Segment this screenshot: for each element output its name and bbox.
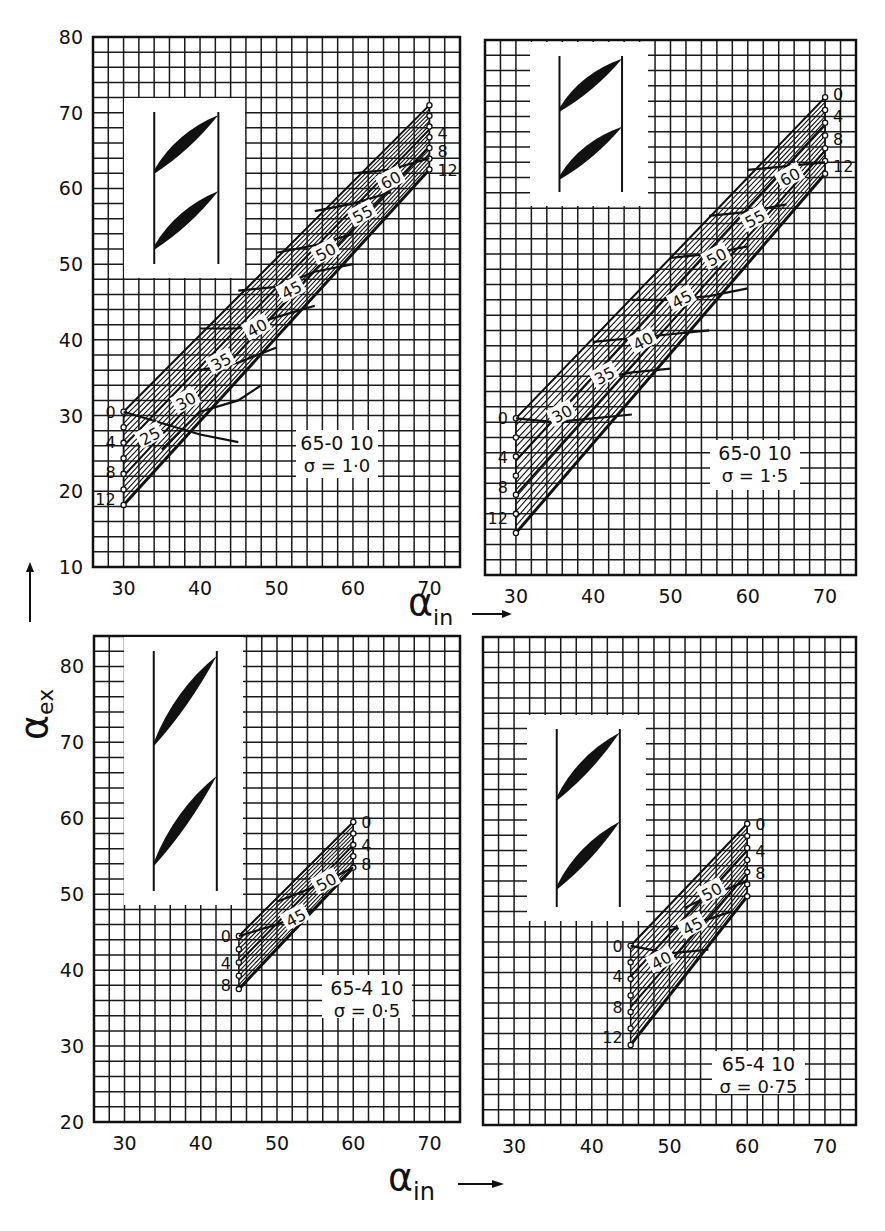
data-point-marker bbox=[236, 960, 241, 965]
data-point-marker bbox=[822, 120, 827, 125]
incidence-label-start: 4 bbox=[612, 967, 622, 986]
x-tick-label: 40 bbox=[188, 577, 212, 599]
chart-bottom-right: 65-4 10σ = 0·75404550004488123040506070 bbox=[483, 637, 856, 1157]
y-tick-label: 50 bbox=[59, 253, 83, 275]
incidence-label-end: 4 bbox=[437, 124, 447, 143]
data-point-marker bbox=[745, 833, 750, 838]
figure: 65-0 10σ = 1·025303540455055600448812123… bbox=[0, 0, 885, 1231]
x-tick-label: 30 bbox=[111, 577, 135, 599]
incidence-label-end: 4 bbox=[361, 836, 371, 855]
data-point-marker bbox=[628, 1042, 633, 1047]
incidence-label-start: 12 bbox=[95, 490, 115, 509]
x-tick-label: 60 bbox=[736, 585, 760, 607]
data-point-marker bbox=[351, 842, 356, 847]
solidity-label: σ = 1·0 bbox=[304, 455, 371, 476]
incidence-label-start: 12 bbox=[602, 1028, 622, 1047]
solidity-label: σ = 0·5 bbox=[334, 1000, 401, 1021]
x-tick-label: 40 bbox=[581, 585, 605, 607]
chart-top-left: 65-0 10σ = 1·025303540455055600448812123… bbox=[59, 26, 460, 599]
data-point-marker bbox=[822, 107, 827, 112]
chart-bottom-left: 65-4 10σ = 0·545500044883040506070203040… bbox=[60, 636, 460, 1154]
incidence-label-end: 8 bbox=[361, 855, 371, 874]
data-point-marker bbox=[427, 167, 432, 172]
incidence-label-end: 4 bbox=[755, 842, 765, 861]
incidence-label-start: 8 bbox=[498, 478, 508, 497]
x-axis-label-bottom: αin bbox=[388, 1155, 435, 1206]
y-tick-label: 70 bbox=[59, 102, 83, 124]
data-point-marker bbox=[628, 976, 633, 981]
incidence-label-end: 4 bbox=[833, 107, 843, 126]
data-point-marker bbox=[628, 993, 633, 998]
x-tick-label: 40 bbox=[580, 1135, 604, 1157]
incidence-label-end: 12 bbox=[437, 161, 457, 180]
blade-cascade-inset bbox=[124, 98, 245, 278]
data-point-marker bbox=[121, 487, 126, 492]
incidence-label-start: 0 bbox=[221, 927, 231, 946]
data-point-marker bbox=[121, 425, 126, 430]
data-point-marker bbox=[427, 113, 432, 118]
incidence-line-4 bbox=[239, 845, 353, 963]
x-tick-label: 40 bbox=[189, 1132, 213, 1154]
y-tick-label: 30 bbox=[59, 405, 83, 427]
incidence-label-start: 4 bbox=[105, 433, 115, 452]
y-tick-label: 30 bbox=[60, 1035, 84, 1057]
incidence-label-end: 0 bbox=[833, 85, 843, 104]
y-tick-label: 70 bbox=[60, 731, 84, 753]
hatch-lines bbox=[239, 822, 353, 989]
y-axis-title bbox=[8, 560, 48, 670]
incidence-label-start: 0 bbox=[612, 937, 622, 956]
solidity-label: σ = 0·75 bbox=[719, 1076, 797, 1097]
data-point-marker bbox=[236, 987, 241, 992]
data-point-marker bbox=[427, 124, 432, 129]
data-point-marker bbox=[745, 894, 750, 899]
incidence-label-start: 12 bbox=[488, 509, 508, 528]
data-point-marker bbox=[121, 502, 126, 507]
y-axis-label: αex bbox=[12, 660, 52, 740]
data-point-marker bbox=[745, 845, 750, 850]
data-point-marker bbox=[513, 473, 518, 478]
solidity-label: σ = 1·5 bbox=[722, 465, 789, 486]
y-tick-label: 20 bbox=[59, 480, 83, 502]
x-tick-label: 30 bbox=[502, 1135, 526, 1157]
y-tick-label: 10 bbox=[59, 556, 83, 578]
x-tick-label: 60 bbox=[341, 577, 365, 599]
y-tick-label: 40 bbox=[59, 329, 83, 351]
x-tick-label: 70 bbox=[813, 1135, 837, 1157]
data-point-marker bbox=[121, 456, 126, 461]
data-point-marker bbox=[236, 973, 241, 978]
y-tick-label: 80 bbox=[59, 26, 83, 48]
data-point-marker bbox=[745, 870, 750, 875]
data-point-marker bbox=[513, 530, 518, 535]
profile-label: 65-4 10 bbox=[722, 1053, 795, 1075]
data-point-marker bbox=[351, 831, 356, 836]
data-point-marker bbox=[513, 454, 518, 459]
data-point-marker bbox=[745, 857, 750, 862]
x-tick-label: 60 bbox=[735, 1135, 759, 1157]
data-point-marker bbox=[745, 821, 750, 826]
y-tick-label: 20 bbox=[60, 1111, 84, 1133]
profile-label: 65-0 10 bbox=[718, 442, 791, 464]
x-axis-arrow-icon-top bbox=[472, 605, 512, 624]
x-tick-label: 50 bbox=[657, 1135, 681, 1157]
incidence-label-start: 0 bbox=[105, 403, 115, 422]
x-axis-label-top: αin bbox=[408, 580, 453, 630]
y-tick-label: 80 bbox=[60, 655, 84, 677]
data-point-marker bbox=[427, 145, 432, 150]
incidence-label-start: 4 bbox=[221, 954, 231, 973]
data-point-marker bbox=[236, 947, 241, 952]
data-point-marker bbox=[628, 1009, 633, 1014]
x-tick-label: 50 bbox=[264, 577, 288, 599]
y-tick-label: 40 bbox=[60, 959, 84, 981]
incidence-label-start: 8 bbox=[612, 998, 622, 1017]
incidence-label-start: 4 bbox=[498, 448, 508, 467]
incidence-label-end: 8 bbox=[833, 130, 843, 149]
data-point-marker bbox=[351, 819, 356, 824]
x-tick-label: 50 bbox=[658, 585, 682, 607]
y-tick-label: 50 bbox=[60, 883, 84, 905]
blade-cascade-inset bbox=[124, 637, 243, 905]
data-point-marker bbox=[121, 440, 126, 445]
x-tick-label: 50 bbox=[265, 1132, 289, 1154]
incidence-label-end: 12 bbox=[833, 157, 853, 176]
data-point-marker bbox=[121, 471, 126, 476]
data-point-marker bbox=[628, 1026, 633, 1031]
